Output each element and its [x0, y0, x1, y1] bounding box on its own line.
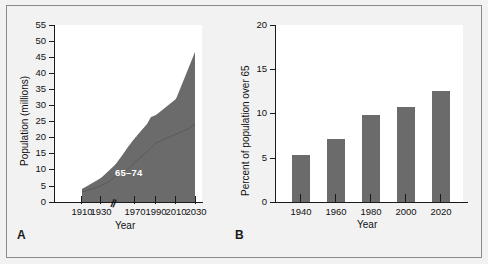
panel-a-ytick: [49, 153, 54, 154]
panel-a-xtick: [81, 196, 82, 204]
panel-a-area-chart: 55 50 45 40 35 30 25 20 15 10 5 0 // 191…: [7, 6, 229, 259]
panel-a-label-75plus: 75+: [120, 131, 137, 142]
panel-b-bar-chart: 20 15 10 5 0 1940 1960 1980 2000 2020 Ye…: [229, 6, 483, 259]
panel-b-ytick-label: 0: [243, 197, 267, 206]
panel-a-ytick-label: 5: [22, 181, 46, 190]
panel-a-ytick-label: 45: [22, 52, 46, 61]
panel-a-xtick: [134, 196, 135, 204]
panel-b-xtick-label: 1940: [284, 207, 318, 217]
bar-2000: [397, 107, 415, 202]
panel-a-ytick: [49, 25, 54, 26]
panel-b-ytick: [270, 113, 275, 114]
panel-b-plot-area: [276, 25, 463, 202]
panel-a-ytick: [49, 137, 54, 138]
bar-2020: [432, 91, 450, 202]
panel-b-y-axis: [275, 25, 276, 203]
panel-b-ytick-label: 20: [243, 20, 267, 29]
panel-a-y-axis-title: Population (millions): [19, 76, 30, 166]
panel-a-ytick: [49, 89, 54, 90]
panel-b-ytick: [270, 158, 275, 159]
figure-container: 55 50 45 40 35 30 25 20 15 10 5 0 // 191…: [0, 0, 488, 264]
panel-a-xtick: [195, 196, 196, 204]
panel-b-xtick-label: 1980: [354, 207, 388, 217]
panel-b-xtick-label: 2020: [424, 207, 458, 217]
panel-a-ytick: [49, 202, 54, 203]
panel-a-letter: A: [17, 228, 26, 242]
panel-b-xtick: [300, 194, 301, 203]
panel-a-ytick: [49, 41, 54, 42]
panel-a-xtick-label: 2030: [179, 207, 213, 217]
bar-1980: [362, 115, 380, 202]
panel-b-letter: B: [235, 228, 244, 242]
panel-a-ytick-label: 50: [22, 36, 46, 45]
panel-a-xtick-label: 1930: [84, 207, 118, 217]
panel-b-y-axis-title: Percent of population over 65: [240, 65, 251, 196]
panel-a-y-axis: [54, 25, 55, 203]
panel-a-x-axis-title: Year: [115, 220, 135, 231]
panel-a-ytick: [49, 186, 54, 187]
panel-a-x-axis: [54, 202, 203, 203]
panel-b-ytick: [270, 25, 275, 26]
panel-b-xtick: [440, 194, 441, 203]
panel-b-xtick-label: 2000: [389, 207, 423, 217]
panel-a-ytick-label: 0: [22, 197, 46, 206]
panel-a-xtick: [100, 196, 101, 204]
panel-a-ytick: [49, 57, 54, 58]
panel-a-label-65-74: 65–74: [115, 167, 142, 178]
panel-a-xtick: [155, 196, 156, 204]
panel-a-xtick: [175, 196, 176, 204]
bar-1960: [327, 139, 345, 202]
panel-a-ytick-label: 55: [22, 20, 46, 29]
panel-b-xtick-label: 1960: [319, 207, 353, 217]
figure-frame: 55 50 45 40 35 30 25 20 15 10 5 0 // 191…: [6, 5, 482, 258]
panel-b-xtick: [370, 194, 371, 203]
panel-b-xtick: [335, 194, 336, 203]
panel-a-ytick: [49, 105, 54, 106]
panel-a-ytick: [49, 121, 54, 122]
panel-a-ytick: [49, 169, 54, 170]
panel-b-xtick: [405, 194, 406, 203]
panel-a-ytick: [49, 73, 54, 74]
panel-b-ytick: [270, 202, 275, 203]
panel-b-ytick: [270, 69, 275, 70]
panel-b-x-axis-title: Year: [357, 219, 377, 230]
